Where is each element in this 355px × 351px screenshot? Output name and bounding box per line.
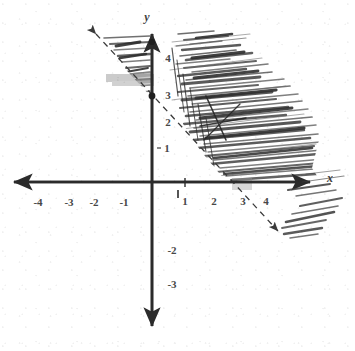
x-tick-label-3: 3: [240, 196, 246, 207]
pencil-smudge: [106, 74, 154, 86]
x-tick-label-1: 1: [182, 196, 188, 207]
shaded-region-hatching: [170, 31, 330, 180]
scanned-graph-figure: x y -4 -3 -2 -1 1 2 3 4 4 3 2 1 -2 -3: [0, 0, 355, 351]
y-axis-label: y: [144, 10, 149, 25]
stray-pencil-strokes: [282, 170, 344, 238]
y-tick-label-neg2: -2: [167, 245, 176, 256]
y-tick-label-4: 4: [165, 53, 171, 64]
x-tick-label-neg3: -3: [64, 197, 73, 208]
y-tick-label-neg3: -3: [167, 279, 176, 290]
x-axis-label: x: [327, 171, 333, 186]
x-tick-label-neg2: -2: [89, 197, 98, 208]
x-tick-label-neg1: -1: [119, 197, 128, 208]
x-tick-label-neg4: -4: [33, 197, 42, 208]
y-tick-label-2: 2: [165, 117, 171, 128]
y-tick-label-3: 3: [165, 90, 171, 101]
y-tick-label-1: 1: [164, 143, 170, 154]
coordinate-plane-svg: [0, 0, 355, 351]
pencil-smudge-lower: [232, 178, 252, 190]
axis-tick-marks: [157, 148, 185, 250]
x-tick-label-2: 2: [211, 196, 217, 207]
x-tick-label-4: 4: [263, 196, 269, 207]
